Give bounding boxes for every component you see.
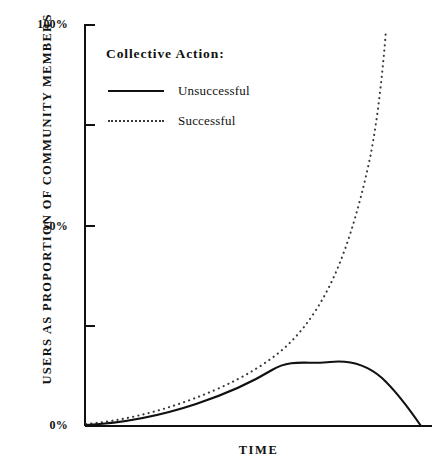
x-axis-title: TIME	[85, 443, 432, 458]
legend-title: Collective Action:	[106, 46, 336, 62]
y-axis-title: USERS AS PROPORTION OF COMMUNITY MEMBERS	[40, 55, 55, 385]
legend-label-unsuccessful: Unsuccessful	[178, 83, 250, 99]
chart-legend: Collective Action: Unsuccessful Successf…	[106, 46, 336, 138]
legend-item-successful: Successful	[106, 108, 336, 134]
chart-figure: 100% 50% 0% USERS AS PROPORTION OF COMMU…	[0, 0, 439, 474]
legend-solid-line-icon	[106, 85, 164, 97]
y-axis-tick-label-0: 0%	[10, 418, 68, 433]
legend-item-unsuccessful: Unsuccessful	[106, 78, 336, 104]
legend-label-successful: Successful	[178, 113, 236, 129]
legend-dotted-line-icon	[106, 115, 164, 127]
series-unsuccessful-curve	[86, 362, 421, 426]
